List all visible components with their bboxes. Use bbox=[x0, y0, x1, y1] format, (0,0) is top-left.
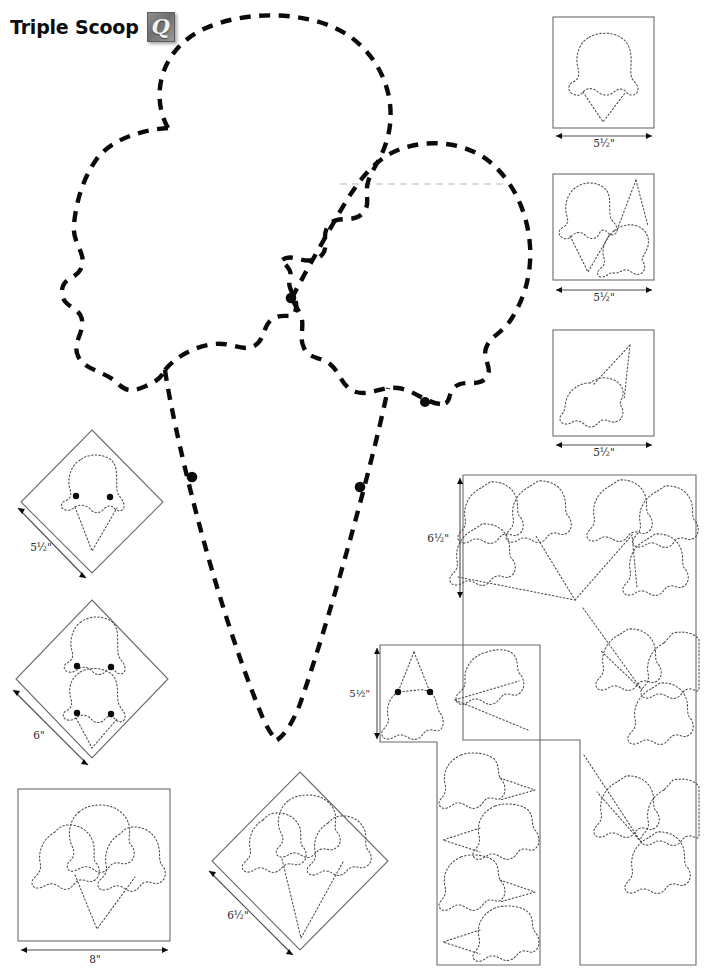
dimension-arrow bbox=[374, 733, 380, 739]
scoop-outline bbox=[473, 906, 539, 961]
cone-outline bbox=[575, 535, 637, 600]
rotated-triple-scoop-cone bbox=[450, 481, 575, 600]
logo-letter: Q bbox=[148, 13, 174, 41]
scoop-outline bbox=[473, 804, 539, 859]
panel-rotated-triple-scoops-large: 6½" bbox=[427, 475, 699, 965]
panel-frame bbox=[463, 475, 696, 965]
scoop-outline bbox=[641, 779, 699, 845]
scoop-outline bbox=[458, 482, 523, 544]
dimension-label: 5½" bbox=[349, 688, 370, 699]
rotated-single-scoop-cone bbox=[443, 906, 539, 961]
cone-outline bbox=[458, 536, 575, 600]
sheet-header: Triple Scoop Q bbox=[10, 12, 175, 42]
cone-outline bbox=[414, 652, 430, 692]
dimension-label: 6½" bbox=[427, 532, 449, 544]
scoop-outline bbox=[641, 632, 699, 698]
rotated-single-scoop-cone bbox=[443, 804, 539, 859]
rotated-single-scoop-cone bbox=[439, 855, 535, 910]
dimension-arrow bbox=[457, 478, 463, 484]
scoop-outline bbox=[506, 481, 571, 543]
rotated-triple-scoop-cone bbox=[584, 755, 699, 893]
scoop-outline bbox=[596, 629, 661, 691]
scoop-outline bbox=[382, 690, 443, 740]
page-title: Triple Scoop bbox=[10, 18, 139, 37]
registration-dot bbox=[395, 689, 401, 695]
rotated-layout-panels: 6½" bbox=[0, 0, 709, 975]
cone-outline bbox=[443, 828, 480, 852]
registration-dot bbox=[427, 689, 433, 695]
dimension-arrow bbox=[457, 592, 463, 598]
dimension-arrow bbox=[374, 648, 380, 654]
pattern-sheet: Triple Scoop Q bbox=[0, 0, 709, 975]
scoop-outline bbox=[587, 480, 652, 542]
tilted-cone-with-registration bbox=[382, 652, 443, 739]
scoop-outline bbox=[439, 753, 505, 808]
panel-frame bbox=[380, 645, 540, 965]
script-q-logo-icon: Q bbox=[147, 12, 175, 42]
cone-outline bbox=[398, 652, 414, 692]
panel-rotated-cones-small: 5½" bbox=[349, 645, 540, 965]
scoop-outline bbox=[439, 855, 505, 910]
rotated-single-scoop-cone bbox=[455, 650, 528, 730]
cone-outline bbox=[443, 930, 480, 954]
scoop-outline bbox=[633, 486, 698, 548]
cone-outline bbox=[583, 608, 642, 690]
rotated-triple-scoop-cone bbox=[575, 480, 698, 600]
rotated-single-scoop-cone bbox=[439, 753, 535, 808]
cone-outline bbox=[584, 755, 641, 842]
rotated-triple-scoop-cone bbox=[583, 608, 699, 744]
